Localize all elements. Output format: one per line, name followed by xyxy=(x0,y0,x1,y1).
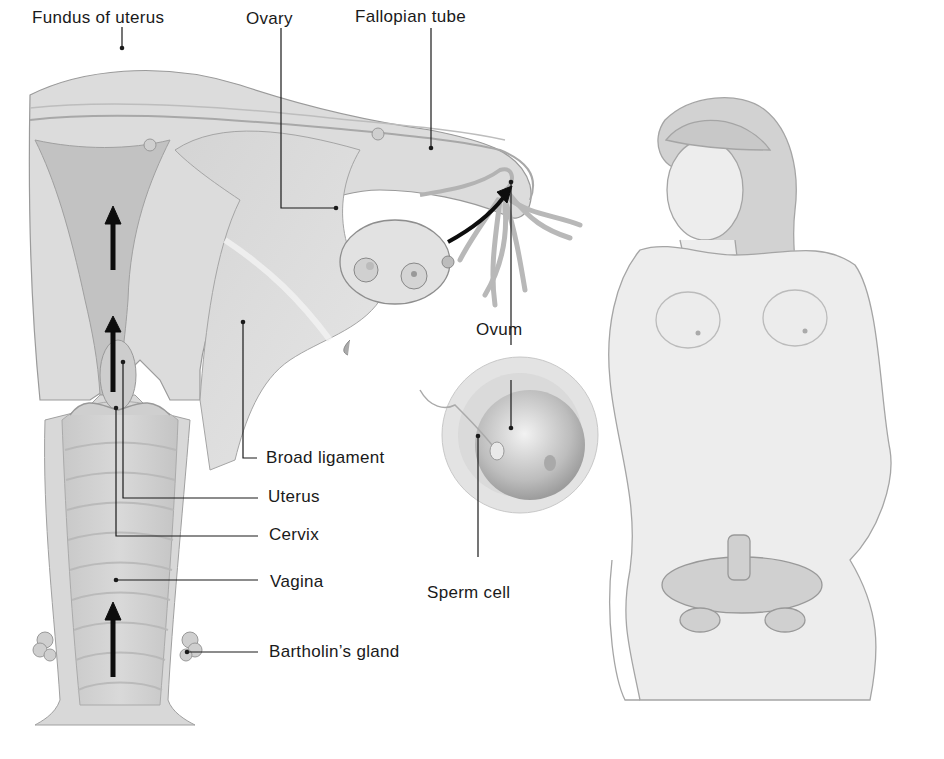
label-fallopian-tube: Fallopian tube xyxy=(355,7,466,27)
label-broad-ligament: Broad ligament xyxy=(266,448,385,468)
label-vagina: Vagina xyxy=(270,572,323,592)
label-cervix: Cervix xyxy=(269,525,319,545)
label-ovary: Ovary xyxy=(246,9,293,29)
label-bartholins-gland: Bartholin’s gland xyxy=(269,642,399,662)
label-sperm-cell: Sperm cell xyxy=(427,583,510,603)
woman-figure xyxy=(609,98,891,700)
label-uterus: Uterus xyxy=(268,487,320,507)
anatomy-illustration xyxy=(0,0,944,759)
label-ovum: Ovum xyxy=(476,320,523,340)
label-fundus-of-uterus: Fundus of uterus xyxy=(32,8,164,28)
ovum-illustration xyxy=(420,357,598,513)
